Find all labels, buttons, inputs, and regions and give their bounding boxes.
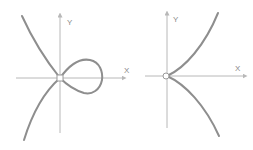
y-axis-label: Y bbox=[67, 18, 73, 27]
origin-node-marker bbox=[57, 75, 63, 81]
nodal-curve-lower-branch bbox=[24, 78, 60, 140]
nodal-curve-loop bbox=[60, 60, 102, 94]
x-axis-label: X bbox=[235, 64, 241, 73]
x-axis-label: X bbox=[124, 66, 130, 75]
cusp-curve-lower-branch bbox=[167, 76, 219, 136]
cuspidal-cubic-plot: Y X bbox=[145, 13, 245, 136]
y-axis-label: Y bbox=[173, 15, 179, 24]
nodal-cubic-plot: Y X bbox=[16, 15, 130, 140]
origin-cusp-marker bbox=[163, 73, 169, 79]
diagram-canvas: Y X Y X bbox=[0, 0, 253, 150]
nodal-curve-upper-branch bbox=[22, 16, 60, 78]
